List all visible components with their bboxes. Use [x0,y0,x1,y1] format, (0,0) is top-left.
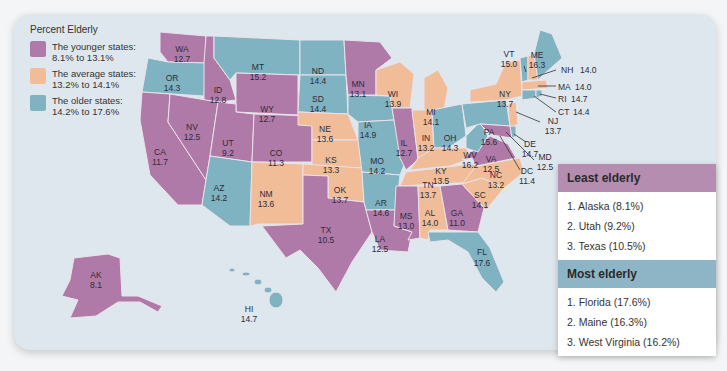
svg-text:14.4: 14.4 [573,107,590,117]
svg-text:13.1: 13.1 [350,89,367,99]
svg-text:AL: AL [425,208,436,218]
svg-text:TN: TN [422,180,433,190]
svg-text:14.4: 14.4 [310,76,327,86]
svg-text:AR: AR [375,198,387,208]
svg-text:UT: UT [222,138,233,148]
swatch-average [30,68,46,84]
svg-text:16.2: 16.2 [462,160,479,170]
legend-range: 8.1% to 13.1% [52,52,136,63]
svg-text:13.7: 13.7 [545,126,562,136]
svg-text:12.7: 12.7 [396,148,413,158]
svg-text:9.2: 9.2 [222,148,234,158]
svg-text:11.7: 11.7 [152,157,168,167]
svg-text:14.0: 14.0 [580,65,597,75]
svg-text:13.5: 13.5 [433,176,450,186]
svg-text:NH: NH [561,65,573,75]
legend-range: 13.2% to 14.1% [52,79,136,90]
list-item: 2. Utah (9.2%) [567,216,707,236]
svg-text:16.3: 16.3 [529,60,546,70]
legend: Percent Elderly The younger states:8.1% … [30,24,150,122]
svg-text:CA: CA [154,147,166,157]
svg-text:12.8: 12.8 [210,95,227,105]
svg-text:13.9: 13.9 [385,99,402,109]
svg-text:15.0: 15.0 [501,59,518,69]
svg-text:13.6: 13.6 [317,134,334,144]
svg-text:14.0: 14.0 [575,82,592,92]
list-item: 3. Texas (10.5%) [567,236,707,256]
list-item: 1. Florida (17.6%) [567,292,707,312]
legend-range: 14.2% to 17.6% [52,106,123,117]
svg-text:GA: GA [451,208,464,218]
svg-text:DE: DE [524,139,536,149]
svg-text:NM: NM [259,189,272,199]
svg-text:VT: VT [504,49,515,59]
svg-text:SD: SD [312,94,324,104]
svg-text:IN: IN [422,133,431,143]
svg-text:14.7: 14.7 [522,149,539,159]
svg-text:ID: ID [214,85,223,95]
state-hi [229,268,283,308]
svg-text:MD: MD [538,152,551,162]
svg-text:13.6: 13.6 [258,199,275,209]
svg-text:AK: AK [90,270,102,280]
state-ak [62,254,162,318]
svg-text:17.6: 17.6 [474,258,491,268]
legend-label: The average states: [52,68,136,79]
svg-text:11.0: 11.0 [449,218,465,228]
svg-text:12.5: 12.5 [483,164,500,174]
svg-text:OH: OH [444,133,457,143]
legend-title: Percent Elderly [30,24,150,35]
svg-text:14.0: 14.0 [422,218,439,228]
svg-text:14.7: 14.7 [241,314,258,324]
svg-text:13.2: 13.2 [418,143,435,153]
svg-text:AZ: AZ [214,183,225,193]
svg-text:14.3: 14.3 [442,143,459,153]
svg-text:8.1: 8.1 [90,280,102,290]
list-item: 3. West Virginia (16.2%) [567,332,707,352]
svg-text:WI: WI [388,89,398,99]
svg-text:15.6: 15.6 [481,137,498,147]
state-ks [312,140,362,168]
svg-text:14.1: 14.1 [423,117,440,127]
legend-label: The younger states: [52,41,136,52]
svg-text:CT: CT [558,107,569,117]
most-elderly-header: Most elderly [558,260,716,288]
svg-text:12.7: 12.7 [174,54,191,64]
state-nm [250,162,303,226]
svg-text:13.3: 13.3 [323,165,340,175]
list-item: 2. Maine (16.3%) [567,312,707,332]
rankings-panel: Least elderly 1. Alaska (8.1%) 2. Utah (… [558,164,716,356]
svg-text:OR: OR [166,73,179,83]
legend-label: The older states: [52,95,123,106]
svg-text:14.2: 14.2 [211,193,228,203]
svg-text:12.5: 12.5 [184,132,201,142]
svg-text:14.6: 14.6 [373,208,390,218]
svg-text:MN: MN [351,79,364,89]
svg-text:11.3: 11.3 [268,158,284,168]
svg-text:WV: WV [463,150,477,160]
svg-text:IL: IL [400,138,407,148]
svg-text:FL: FL [477,247,487,257]
svg-text:NV: NV [186,122,198,132]
svg-text:MT: MT [252,62,264,72]
svg-text:13.7: 13.7 [332,195,349,205]
svg-text:12.5: 12.5 [537,162,554,172]
svg-text:LA: LA [375,234,386,244]
list-item: 1. Alaska (8.1%) [567,196,707,216]
most-elderly-list: 1. Florida (17.6%) 2. Maine (16.3%) 3. W… [558,288,716,356]
svg-text:DC: DC [521,166,533,176]
legend-item-older: The older states:14.2% to 17.6% [30,95,150,117]
svg-text:14.3: 14.3 [164,83,181,93]
svg-text:SC: SC [474,190,486,200]
svg-text:MS: MS [400,211,413,221]
svg-text:MO: MO [370,156,384,166]
svg-text:IA: IA [364,120,372,130]
svg-text:13.2: 13.2 [488,180,505,190]
svg-text:VA: VA [486,154,497,164]
legend-item-younger: The younger states:8.1% to 13.1% [30,41,150,63]
state-fl [428,232,504,292]
svg-text:WA: WA [175,44,189,54]
svg-text:KS: KS [325,155,337,165]
swatch-younger [30,41,46,57]
svg-text:13.7: 13.7 [497,99,514,109]
